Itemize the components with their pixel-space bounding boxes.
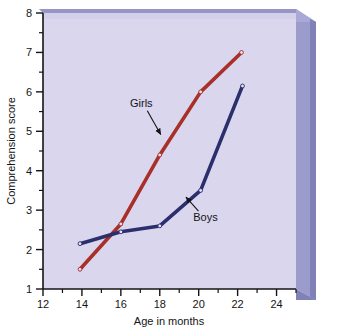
plot-box-right-edge [310,19,316,300]
y-tick-label: 7 [26,46,32,58]
data-point-marker [119,230,123,234]
data-point-marker [199,90,203,94]
comprehension-score-line-chart: 8 7 6 5 4 3 2 1 [0,0,338,333]
x-tick-label: 14 [76,298,88,310]
plot-area-top-shade [43,13,296,19]
chart-figure: 8 7 6 5 4 3 2 1 [0,0,338,333]
data-point-marker [240,51,244,55]
x-tick-label: 16 [115,298,127,310]
plot-box-3d [39,9,316,300]
y-tick-label: 2 [26,244,32,256]
x-axis-title: Age in months [134,315,205,327]
y-axis-title: Comprehension score [5,97,17,205]
data-point-marker [158,153,162,157]
x-tick-label: 18 [154,298,166,310]
x-tick-label: 20 [193,298,205,310]
x-tick-label: 24 [270,298,282,310]
x-tick-label: 22 [231,298,243,310]
x-axis-tick-labels: 12 14 16 18 20 22 24 [37,298,283,310]
annotation-boys-label: Boys [193,211,218,223]
y-tick-label: 6 [26,86,32,98]
y-tick-label: 1 [26,283,32,295]
plot-box-top-edge [39,9,296,13]
y-axis-tick-labels: 8 7 6 5 4 3 2 1 [26,7,32,295]
x-axis-major-ticks [43,289,277,296]
y-tick-label: 4 [26,165,32,177]
x-tick-label: 12 [37,298,49,310]
data-point-marker [78,267,82,271]
annotation-girls-label: Girls [130,97,153,109]
data-point-marker [158,224,162,228]
data-point-marker [119,222,123,226]
y-tick-label: 5 [26,125,32,137]
data-point-marker [199,189,203,193]
plot-area-background [43,13,296,289]
data-point-marker [78,242,82,246]
data-point-marker [241,84,245,88]
y-tick-label: 3 [26,204,32,216]
y-tick-label: 8 [26,7,32,19]
